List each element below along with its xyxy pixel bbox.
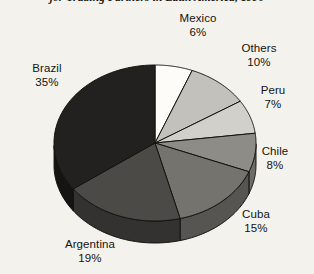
slice-label-chile-name: Chile	[262, 145, 289, 157]
slice-label-cuba: Cuba 15%	[226, 208, 286, 235]
pie-slice-tops	[54, 65, 256, 221]
slice-label-mexico-name: Mexico	[179, 12, 216, 24]
slice-label-brazil-name: Brazil	[32, 62, 61, 74]
slice-label-chile: Chile 8%	[246, 145, 304, 172]
slice-label-mexico-pct: 6%	[163, 26, 233, 40]
slice-label-others-pct: 10%	[228, 56, 290, 70]
slice-label-brazil: Brazil 35%	[14, 62, 80, 89]
pie-chart-figure: jor Trading Partners in Latin America, 1…	[0, 0, 314, 274]
slice-label-brazil-pct: 35%	[14, 76, 80, 90]
slice-label-chile-pct: 8%	[246, 159, 304, 173]
slice-label-cuba-name: Cuba	[242, 208, 270, 220]
slice-label-argentina-name: Argentina	[65, 238, 115, 250]
slice-label-others-name: Others	[241, 42, 276, 54]
slice-label-peru: Peru 7%	[245, 84, 301, 111]
slice-label-argentina: Argentina 19%	[44, 238, 136, 265]
slice-label-argentina-pct: 19%	[44, 252, 136, 266]
slice-label-peru-pct: 7%	[245, 98, 301, 112]
slice-label-cuba-pct: 15%	[226, 222, 286, 236]
slice-label-others: Others 10%	[228, 42, 290, 69]
slice-label-mexico: Mexico 6%	[163, 12, 233, 39]
slice-label-peru-name: Peru	[261, 84, 286, 96]
